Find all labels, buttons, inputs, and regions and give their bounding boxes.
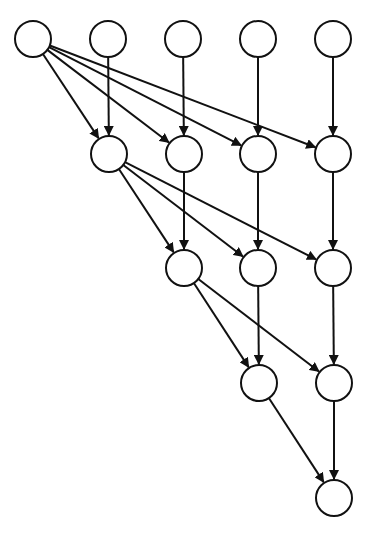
edge-r4c4-to-r5c5 [269,398,324,482]
node-r2c5 [315,136,351,172]
edge-r3c5-to-r4c5 [333,286,334,364]
node-r3c4 [240,250,276,286]
node-r3c5 [315,250,351,286]
directed-graph-diagram [0,0,374,543]
edge-r1c2-to-r2c2 [108,57,109,135]
node-r4c5 [316,365,352,401]
node-r2c4 [240,136,276,172]
node-r5c5 [316,480,352,516]
node-r1c5 [315,21,351,57]
node-r2c3 [166,136,202,172]
node-r3c3 [166,250,202,286]
edge-r2c2-to-r3c5 [125,162,316,259]
edge-r1c1-to-r2c4 [49,47,241,145]
node-r1c4 [240,21,276,57]
node-r4c4 [241,365,277,401]
edge-r3c4-to-r4c4 [258,286,259,364]
node-r1c1 [15,21,51,57]
edge-r1c3-to-r2c3 [183,57,184,135]
node-r1c2 [90,21,126,57]
node-r1c3 [165,21,201,57]
node-r2c2 [91,136,127,172]
